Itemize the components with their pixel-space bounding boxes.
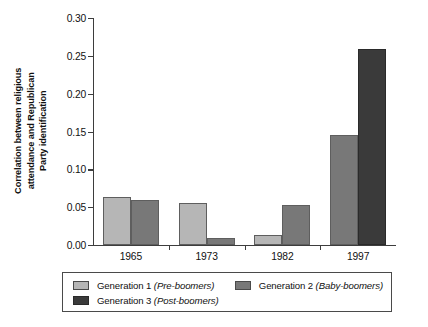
x-tick-boundary-3 (320, 245, 321, 250)
legend-item-generation-1: Generation 1 (Pre-boomers) (73, 280, 235, 291)
bar-1997-generation-3 (358, 49, 386, 245)
chart-legend: Generation 1 (Pre-boomers) Generation 2 … (62, 272, 392, 312)
y-tick-label-0.00: 0.00 (67, 240, 86, 251)
bar-1973-generation-1 (179, 203, 207, 245)
bar-1997-generation-2 (330, 135, 358, 245)
y-tick-0.30 (88, 18, 93, 19)
x-tick-label-1965: 1965 (120, 251, 142, 262)
legend-label-generation-2: Generation 2 (Baby-boomers) (259, 280, 383, 291)
x-tick-boundary-2 (245, 245, 246, 250)
y-tick-label-0.20: 0.20 (67, 88, 86, 99)
y-tick-0.00 (88, 245, 93, 246)
legend-label-generation-3: Generation 3 (Post-boomers) (97, 295, 219, 306)
bar-1965-generation-2 (131, 200, 159, 245)
y-tick-label-0.15: 0.15 (67, 126, 86, 137)
y-tick-0.10 (88, 169, 93, 170)
y-tick-label-0.10: 0.10 (67, 164, 86, 175)
y-axis-title-line-3: Party identification (37, 68, 50, 194)
legend-label-generation-1: Generation 1 (Pre-boomers) (97, 280, 214, 291)
x-tick-label-1982: 1982 (271, 251, 293, 262)
legend-item-generation-3: Generation 3 (Post-boomers) (73, 295, 245, 306)
y-tick-0.15 (88, 132, 93, 133)
x-tick-boundary-1 (169, 245, 170, 250)
y-axis-line (93, 18, 94, 245)
y-tick-label-0.30: 0.30 (67, 13, 86, 24)
bar-1973-generation-2 (207, 238, 235, 245)
legend-row-2: Generation 3 (Post-boomers) (73, 293, 383, 308)
y-axis-title-line-2: attendance and Republican (25, 68, 38, 194)
legend-swatch-generation-2 (235, 281, 251, 290)
plot-area: 0.000.050.100.150.200.250.30 19651973198… (93, 18, 396, 245)
bar-1982-generation-2 (282, 205, 310, 245)
y-tick-0.20 (88, 94, 93, 95)
y-tick-label-0.05: 0.05 (67, 202, 86, 213)
legend-swatch-generation-3 (73, 296, 89, 305)
x-tick-label-1973: 1973 (196, 251, 218, 262)
bar-1965-generation-1 (103, 197, 131, 245)
y-axis-title-line-1: Correlation between religious (12, 68, 25, 194)
y-axis-title: Correlation between religious attendance… (0, 0, 62, 262)
x-tick-label-1997: 1997 (347, 251, 369, 262)
y-tick-label-0.25: 0.25 (67, 50, 86, 61)
legend-row-1: Generation 1 (Pre-boomers) Generation 2 … (73, 278, 383, 293)
y-tick-0.25 (88, 56, 93, 57)
bar-1982-generation-1 (254, 235, 282, 245)
legend-swatch-generation-1 (73, 281, 89, 290)
bar-chart-figure: Correlation between religious attendance… (0, 0, 428, 327)
y-tick-0.05 (88, 207, 93, 208)
legend-item-generation-2: Generation 2 (Baby-boomers) (235, 280, 383, 291)
